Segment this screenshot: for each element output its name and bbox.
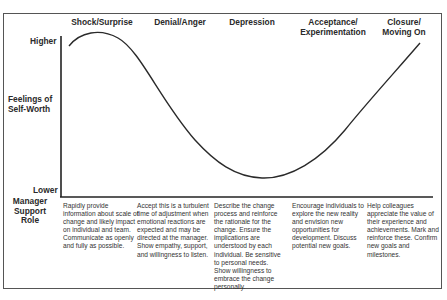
stage-label-closure-moving-on: Closure/ Moving On <box>374 18 434 37</box>
stage-label-denial-anger: Denial/Anger <box>140 18 220 28</box>
manager-support-row-label: Manager Support Role <box>9 197 51 226</box>
stage-label-acceptance-experimentation: Acceptance/ Experimentation <box>288 18 378 37</box>
manager-support-closure-moving-on: Help colleagues appreciate the value of … <box>367 202 439 259</box>
y-axis-title: Feelings of Self-Worth <box>8 95 52 114</box>
y-axis-low-label: Lower <box>33 186 58 196</box>
y-axis-high-label: Higher <box>30 37 57 47</box>
manager-support-depression: Describe the change process and reinforc… <box>214 202 286 291</box>
manager-support-shock-surprise: Rapidly provide information about scale … <box>63 202 140 251</box>
self-worth-curve <box>69 32 420 178</box>
stage-label-shock-surprise: Shock/Surprise <box>62 18 142 28</box>
manager-support-denial-anger: Accept this is a turbulent time of adjus… <box>137 202 211 259</box>
manager-support-acceptance-experimentation: Encourage individuals to explore the new… <box>292 202 364 251</box>
stage-label-depression: Depression <box>212 18 292 28</box>
